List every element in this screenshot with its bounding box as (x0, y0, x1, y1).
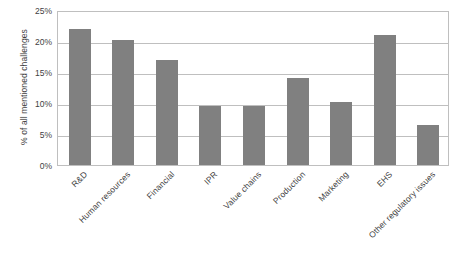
bar-slot (319, 12, 363, 165)
bar[interactable] (374, 35, 396, 165)
x-axis-tick-label: IPR (203, 170, 220, 187)
bar-slot (406, 12, 450, 165)
bar[interactable] (330, 102, 352, 165)
y-axis-tick-label: 0% (22, 162, 52, 171)
bar[interactable] (156, 60, 178, 165)
bar[interactable] (199, 106, 221, 165)
x-axis-tick-label: Production (271, 170, 307, 206)
y-axis-tick-label: 15% (22, 69, 52, 78)
bar[interactable] (112, 40, 134, 165)
bar[interactable] (243, 106, 265, 165)
y-axis-tick-label: 10% (22, 100, 52, 109)
bar-slot (102, 12, 146, 165)
bar-slot (189, 12, 233, 165)
bar[interactable] (69, 29, 91, 165)
bar[interactable] (417, 125, 439, 165)
x-axis-tick-label: R&D (70, 170, 89, 189)
x-axis-tick-label: EHS (375, 170, 394, 189)
x-axis-tick-label: Value chains (222, 170, 263, 211)
plot-area (57, 11, 449, 166)
y-axis-tick-label: 5% (22, 131, 52, 140)
bar-slot (232, 12, 276, 165)
bar-chart: % of all mentioned challenges 25%20%15%1… (0, 0, 455, 266)
bar[interactable] (287, 78, 309, 165)
y-axis-tick-labels: 25%20%15%10%5%0% (22, 11, 52, 166)
x-axis-tick-label: Marketing (317, 170, 350, 203)
y-axis-tick-label: 20% (22, 38, 52, 47)
bar-slot (58, 12, 102, 165)
x-axis-tick-labels: R&DHuman resourcesFinancialIPRValue chai… (57, 166, 449, 266)
bar-slot (145, 12, 189, 165)
y-axis-tick-label: 25% (22, 7, 52, 16)
bar-slot (363, 12, 407, 165)
bar-slot (276, 12, 320, 165)
x-axis-tick-label: Financial (145, 170, 176, 201)
bars-layer (58, 12, 448, 165)
